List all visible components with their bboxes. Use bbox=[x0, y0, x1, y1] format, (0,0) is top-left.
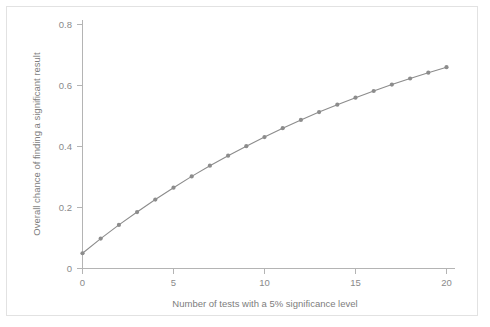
data-point bbox=[317, 110, 321, 114]
x-tick-label-0: 0 bbox=[80, 277, 85, 288]
chart-figure: 0 0.2 0.4 0.6 0.8 0 5 10 15 20 Number of… bbox=[0, 0, 490, 327]
x-tick-label-1: 5 bbox=[171, 277, 176, 288]
data-point bbox=[426, 71, 430, 75]
data-point bbox=[80, 251, 84, 255]
data-point bbox=[444, 65, 448, 69]
y-axis-ticks bbox=[77, 25, 83, 269]
y-tick-label-4: 0.8 bbox=[59, 19, 72, 30]
chart-plot-area: 0 0.2 0.4 0.6 0.8 0 5 10 15 20 Number of… bbox=[0, 0, 490, 327]
y-tick-label-1: 0.2 bbox=[59, 202, 72, 213]
data-point bbox=[208, 164, 212, 168]
data-series bbox=[80, 65, 448, 255]
y-tick-label-3: 0.6 bbox=[59, 80, 72, 91]
data-point bbox=[408, 76, 412, 80]
data-point bbox=[390, 82, 394, 86]
y-axis-tick-labels: 0 0.2 0.4 0.6 0.8 bbox=[59, 19, 72, 274]
data-point bbox=[335, 103, 339, 107]
data-point bbox=[153, 197, 157, 201]
x-axis-ticks bbox=[83, 269, 447, 275]
data-point bbox=[281, 126, 285, 130]
series-markers bbox=[80, 65, 448, 255]
y-tick-label-0: 0 bbox=[67, 263, 72, 274]
data-point bbox=[299, 118, 303, 122]
data-point bbox=[171, 186, 175, 190]
x-tick-label-2: 10 bbox=[259, 277, 270, 288]
y-tick-label-2: 0.4 bbox=[59, 141, 72, 152]
data-point bbox=[99, 237, 103, 241]
data-point bbox=[190, 174, 194, 178]
data-point bbox=[262, 135, 266, 139]
data-point bbox=[226, 154, 230, 158]
data-point bbox=[117, 223, 121, 227]
x-tick-label-3: 15 bbox=[350, 277, 361, 288]
series-line bbox=[83, 67, 447, 253]
data-point bbox=[372, 89, 376, 93]
data-point bbox=[353, 96, 357, 100]
x-axis-title: Number of tests with a 5% significance l… bbox=[172, 298, 357, 309]
x-tick-label-4: 20 bbox=[441, 277, 452, 288]
data-point bbox=[135, 210, 139, 214]
y-axis-title: Overall chance of finding a significant … bbox=[31, 52, 42, 236]
data-point bbox=[244, 144, 248, 148]
x-axis-tick-labels: 0 5 10 15 20 bbox=[80, 277, 452, 288]
